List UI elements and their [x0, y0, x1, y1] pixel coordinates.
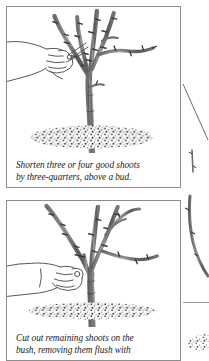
panel-1-caption-line-1: Shorten three or four good shoots — [16, 160, 173, 171]
hand-with-secateurs-drawing — [7, 42, 88, 84]
panel-2-caption: Cut out remaining shoots on the bush, re… — [7, 333, 180, 360]
gutter-horizontal-rule — [183, 302, 209, 303]
hand-reaching-base-drawing — [7, 263, 83, 297]
panel-1-caption-line-2: by three-quarters, above a bud. — [16, 172, 173, 183]
panel-1-caption: Shorten three or four good shoots by thr… — [7, 160, 180, 187]
adjacent-column-fragment — [181, 0, 209, 361]
book-page: Shorten three or four good shoots by thr… — [0, 0, 209, 361]
pruning-shears-cutting-shoot-illustration — [7, 7, 180, 153]
hand-removing-shoot-at-base-illustration — [7, 201, 180, 327]
panel-2-caption-line-2: bush, removing them flush with — [16, 345, 173, 356]
illustration-panel-2: Cut out remaining shoots on the bush, re… — [6, 200, 181, 361]
illustration-panel-1: Shorten three or four good shoots by thr… — [6, 6, 181, 188]
panel-2-caption-line-1: Cut out remaining shoots on the — [16, 333, 173, 344]
